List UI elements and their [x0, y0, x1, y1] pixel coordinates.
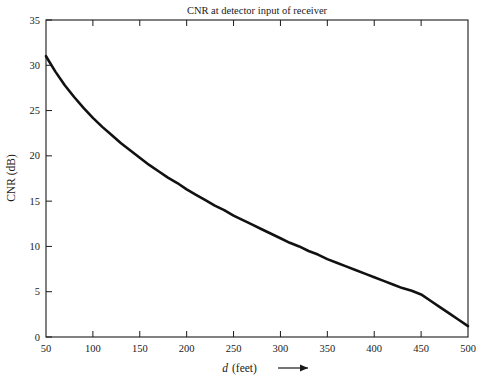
y-tick-label: 30 [30, 60, 41, 71]
y-tick-label: 35 [30, 15, 41, 26]
y-tick-label: 25 [30, 105, 41, 116]
x-tick-label: 500 [460, 343, 476, 354]
y-tick-label: 20 [30, 150, 41, 161]
x-tick-label: 100 [85, 343, 101, 354]
x-tick-label: 200 [179, 343, 195, 354]
y-axis-label: CNR (dB) [5, 154, 18, 202]
y-tick-label: 5 [35, 286, 40, 297]
x-tick-label: 300 [273, 343, 289, 354]
x-tick-label: 350 [319, 343, 335, 354]
chart-canvas: CNR at detector input of receiver 051015… [0, 0, 484, 382]
x-tick-label: 250 [226, 343, 242, 354]
y-tick-label: 10 [30, 241, 41, 252]
x-axis-label-units: (feet) [232, 362, 257, 375]
y-tick-label: 0 [35, 332, 40, 343]
x-axis-label-group: d (feet) [222, 362, 308, 375]
x-tick-label: 400 [366, 343, 382, 354]
x-tick-label: 450 [413, 343, 429, 354]
x-tick-label: 50 [41, 343, 52, 354]
x-axis-ticks: 50100150200250300350400450500 [41, 20, 476, 354]
y-tick-label: 15 [30, 196, 41, 207]
data-curve-cnr [46, 56, 468, 326]
chart-figure: CNR at detector input of receiver 051015… [0, 0, 484, 382]
y-axis-ticks: 05101520253035 [30, 15, 53, 343]
x-tick-label: 150 [132, 343, 148, 354]
chart-title: CNR at detector input of receiver [187, 5, 328, 16]
right-arrow-icon [278, 365, 308, 372]
x-axis-label-variable: d [222, 362, 228, 374]
